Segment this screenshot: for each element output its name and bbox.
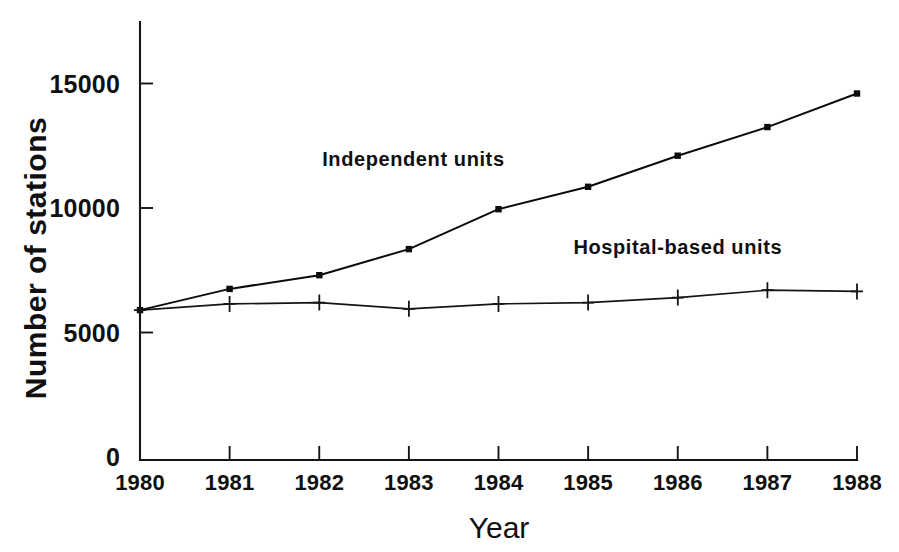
data-point-marker [764, 124, 770, 130]
data-point-marker [403, 301, 415, 317]
line-chart: 050001000015000 198019811982198319841985… [0, 0, 899, 552]
figure-container: 050001000015000 198019811982198319841985… [0, 0, 899, 552]
series-annotation-2: Hospital-based units [573, 236, 782, 258]
x-tick-label: 1986 [653, 470, 703, 495]
y-tick-label: 15000 [49, 70, 120, 98]
data-point-marker [313, 295, 325, 311]
x-tick-label: 1987 [743, 470, 793, 495]
data-point-marker [761, 282, 773, 298]
y-axis-title: Number of stations [19, 117, 52, 399]
data-point-marker [493, 296, 505, 312]
data-point-marker [585, 184, 591, 190]
x-tick-label: 1988 [832, 470, 882, 495]
x-tick-label-group: 198019811982198319841985198619871988 [115, 470, 882, 495]
series-annotation-group: Independent unitsHospital-based units [322, 148, 782, 258]
data-point-marker [406, 246, 412, 252]
data-point-marker [672, 290, 684, 306]
data-point-marker [134, 302, 146, 318]
x-tick-label: 1980 [115, 470, 165, 495]
x-axis-title: Year [469, 511, 530, 544]
data-point-marker [226, 286, 232, 292]
data-series-group [134, 90, 863, 318]
data-point-marker [495, 206, 501, 212]
x-tick-label: 1981 [205, 470, 255, 495]
y-tick-label: 10000 [49, 194, 120, 222]
series-line-1 [140, 94, 857, 311]
x-tick-label: 1984 [474, 470, 524, 495]
axis-tick-group [140, 84, 857, 461]
data-point-marker [316, 272, 322, 278]
y-tick-label: 5000 [64, 319, 120, 347]
series-annotation-1: Independent units [322, 148, 504, 170]
data-point-marker [675, 153, 681, 159]
y-tick-label-group: 050001000015000 [49, 70, 120, 472]
x-tick-label: 1985 [563, 470, 613, 495]
x-tick-label: 1983 [384, 470, 434, 495]
x-tick-label: 1982 [294, 470, 344, 495]
data-point-marker [582, 295, 594, 311]
data-point-marker [854, 90, 860, 96]
data-point-marker [224, 296, 236, 312]
y-tick-label: 0 [106, 443, 120, 471]
data-point-marker [851, 283, 863, 299]
